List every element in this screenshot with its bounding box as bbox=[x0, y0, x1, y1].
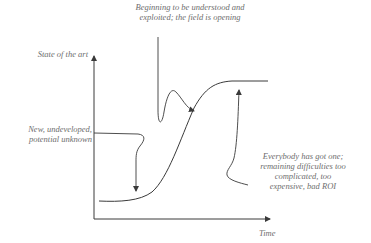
diagram-canvas bbox=[0, 0, 371, 243]
top-callout-arrow bbox=[158, 37, 194, 122]
right-annotation-line2: remaining difficulties too bbox=[248, 161, 358, 171]
right-annotation-line4: expensive, bad ROI bbox=[248, 181, 358, 191]
s-curve-diagram: Beginning to be understood and exploited… bbox=[0, 0, 371, 243]
right-callout-arrow bbox=[227, 90, 248, 185]
left-annotation: New, undeveloped, potential unknown bbox=[4, 124, 92, 144]
right-annotation-line3: complicated, too bbox=[248, 171, 358, 181]
y-axis-label: State of the art bbox=[20, 49, 88, 59]
top-annotation-line1: Beginning to be understood and bbox=[117, 2, 263, 12]
right-annotation-line1: Everybody has got one; bbox=[248, 151, 358, 161]
x-axis-label: Time bbox=[259, 228, 276, 238]
left-callout-arrow bbox=[94, 133, 144, 191]
right-annotation: Everybody has got one; remaining difficu… bbox=[248, 151, 358, 191]
left-annotation-line2: potential unknown bbox=[4, 134, 92, 144]
top-annotation: Beginning to be understood and exploited… bbox=[117, 2, 263, 22]
top-annotation-line2: exploited; the field is opening bbox=[117, 12, 263, 22]
left-annotation-line1: New, undeveloped, bbox=[4, 124, 92, 134]
